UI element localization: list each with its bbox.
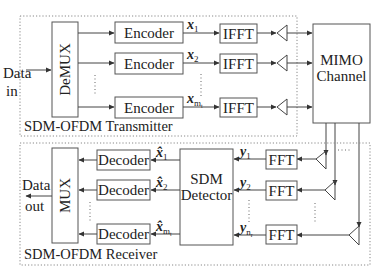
encoder-2: Encoder [115,53,183,74]
fft-1: FFT [266,150,297,169]
rx-antenna-icon [325,181,335,200]
signal-xhat2: x̂2 [155,175,168,192]
encoder-mt-label: Encoder [124,100,174,116]
decoder-1: Decoder [97,150,150,170]
mimo-channel-label-line2: Channel [317,68,367,84]
encoder-2-label: Encoder [124,56,174,72]
ifft-mt-label: IFFT [223,100,254,116]
fft-2-label: FFT [269,183,295,199]
fft-2: FFT [266,181,297,200]
fft-1-label: FFT [269,152,295,168]
mimo-channel-label-line1: MIMO [320,52,363,68]
ifft-2: IFFT [220,54,257,73]
ifft-2-label: IFFT [223,56,254,72]
encoder-1-label: Encoder [124,25,174,41]
data-out-label-line1: Data [22,177,51,193]
decoder-mt: Decoder [97,224,150,244]
decoder-1-label: Decoder [98,152,149,168]
signal-ynr: ynr [238,220,253,238]
fft-nr-label: FFT [269,227,295,243]
tx-antenna-icon [277,55,287,71]
rx-antenna-icon [349,226,359,245]
signal-xhatmt: x̂mt [155,219,172,237]
decoder-2: Decoder [97,180,150,200]
tx-antenna-icon [277,25,287,41]
signal-x2: x2 [186,47,199,64]
encoder-1: Encoder [115,22,183,43]
decoder-mt-label: Decoder [98,226,149,242]
tx-antenna-icon [277,99,287,115]
signal-x1: x1 [186,17,199,34]
signal-y1: y1 [238,144,251,161]
data-out-label-line2: out [25,198,45,214]
sdm-detector-label-line2: Detector [181,187,233,203]
ifft-1-label: IFFT [223,26,254,42]
sdm-detector-label-line1: SDM [190,171,223,187]
signal-y2: y2 [238,175,251,192]
ifft-mt: IFFT [220,98,257,117]
data-in-label-line1: Data [3,65,32,81]
data-in-label-line2: in [6,83,18,99]
mux-label: MUX [57,178,73,213]
signal-xhat1: x̂1 [155,145,168,162]
encoder-mt: Encoder [115,97,183,118]
receiver-title: SDM-OFDM Receiver [24,246,157,262]
decoder-2-label: Decoder [98,182,149,198]
fft-nr: FFT [266,225,297,244]
ifft-1: IFFT [220,24,257,43]
signal-xmt: xmt [186,91,203,109]
transmitter-title: SDM-OFDM Transmitter [24,118,173,134]
sdm-ofdm-diagram: Data in DeMUX Encoder Encoder Encoder x1… [0,0,386,274]
demux-label: DeMUX [57,43,73,96]
rx-antenna-icon [316,151,326,169]
